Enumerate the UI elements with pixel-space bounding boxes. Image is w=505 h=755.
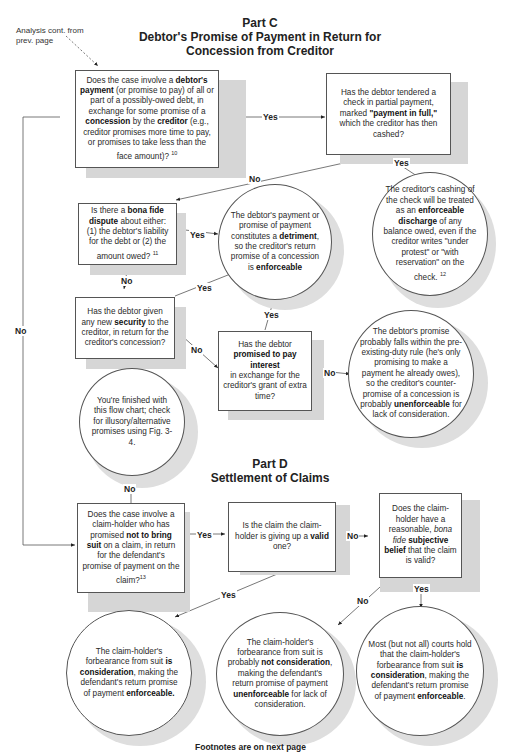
edge-label-yes: Yes bbox=[189, 230, 206, 240]
node-is-consideration-result: The claim-holder's forbearance from suit… bbox=[66, 610, 192, 736]
edge-label-no: No bbox=[123, 484, 136, 494]
node-text: Is there a bona fide dispute about eithe… bbox=[83, 206, 172, 262]
node-promise-interest-question: Has the debtor promised to pay interesti… bbox=[218, 331, 312, 411]
node-finished-flowchart-result: You're finished with this flow chart; ch… bbox=[79, 368, 185, 476]
edge-label-no: No bbox=[248, 174, 261, 184]
node-text: Has the debtor promised to pay interesti… bbox=[223, 340, 307, 402]
edge-label-yes: Yes bbox=[413, 584, 430, 594]
node-text: The claim-holder's forbearance from suit… bbox=[227, 638, 333, 711]
edge-label-no: No bbox=[120, 276, 133, 286]
edge-label-no: No bbox=[346, 531, 359, 541]
node-text: Does the claim-holder have a reasonable,… bbox=[384, 504, 457, 566]
node-text: Has the debtor given any new security to… bbox=[80, 307, 170, 349]
footnotes-note: Footnotes are on next page bbox=[195, 742, 306, 752]
edge-label-no: No bbox=[356, 596, 369, 606]
node-text: The debtor's payment or promise of payme… bbox=[229, 211, 321, 273]
node-text: Does the case involve a claim-holder who… bbox=[82, 510, 180, 587]
part-c-heading: Part C bbox=[150, 16, 370, 30]
node-check-payment-in-full-question: Has the debtor tendered a check in parti… bbox=[326, 73, 451, 155]
node-valid-claim-question: Is the claim the claim-holder is giving … bbox=[228, 502, 336, 572]
edge-label-yes: Yes bbox=[196, 530, 213, 540]
node-text: Does the case involve a debtor's payment… bbox=[80, 76, 214, 163]
node-subjective-belief-question: Does the claim-holder have a reasonable,… bbox=[379, 493, 462, 578]
edge-label-yes: Yes bbox=[263, 310, 280, 320]
edge-label-yes: Yes bbox=[262, 112, 279, 122]
edge-label-yes: Yes bbox=[220, 590, 237, 600]
part-c-title: Debtor's Promise of Payment in Return fo… bbox=[130, 30, 390, 58]
node-text: Has the debtor tendered a check in parti… bbox=[331, 88, 446, 140]
entry-note: Analysis cont. from prev. page bbox=[16, 26, 106, 46]
entry-note-line2: prev. page bbox=[16, 36, 106, 46]
part-c-title-line1: Debtor's Promise of Payment in Return fo… bbox=[130, 30, 390, 44]
node-text: The claim-holder's forbearance from suit… bbox=[77, 647, 181, 699]
node-detriment-enforceable-result: The debtor's payment or promise of payme… bbox=[218, 184, 332, 300]
flowchart-page: Part C Debtor's Promise of Payment in Re… bbox=[0, 0, 505, 755]
node-text: The debtor's promise probably falls with… bbox=[359, 327, 463, 421]
node-not-consideration-result: The claim-holder's forbearance from suit… bbox=[216, 612, 344, 736]
entry-note-line1: Analysis cont. from bbox=[16, 26, 106, 36]
node-text: You're finished with this flow chart; ch… bbox=[90, 396, 174, 448]
part-d-heading: Part D bbox=[200, 457, 340, 471]
node-text: Most (but not all) courts hold that the … bbox=[367, 640, 473, 702]
edge-label-no: No bbox=[190, 345, 203, 355]
node-debtor-payment-question: Does the case involve a debtor's payment… bbox=[75, 70, 219, 168]
node-new-security-question: Has the debtor given any new security to… bbox=[75, 297, 175, 359]
part-d-title: Settlement of Claims bbox=[185, 471, 355, 485]
node-text: Is the claim the claim-holder is giving … bbox=[233, 521, 331, 552]
edge-label-no: No bbox=[323, 368, 336, 378]
node-enforceable-discharge-result: The creditor's cashing of the check will… bbox=[372, 172, 488, 296]
node-bona-fide-dispute-question: Is there a bona fide dispute about eithe… bbox=[78, 203, 177, 265]
edge-label-yes: Yes bbox=[196, 283, 213, 293]
part-c-title-line2: Concession from Creditor bbox=[130, 44, 390, 58]
node-text: The creditor's cashing of the check will… bbox=[383, 185, 477, 282]
node-preexisting-duty-result: The debtor's promise probably falls with… bbox=[348, 310, 474, 438]
node-not-bring-suit-question: Does the case involve a claim-holder who… bbox=[77, 503, 185, 593]
edge-label-yes: Yes bbox=[393, 158, 410, 168]
edge-label-no: No bbox=[14, 326, 27, 336]
node-most-courts-result: Most (but not all) courts hold that the … bbox=[356, 606, 484, 736]
